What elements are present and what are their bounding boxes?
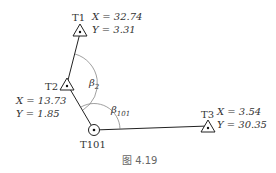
t3-y-coord: Y = 30.35: [217, 119, 267, 130]
t3-x-coord: X = 3.54: [216, 106, 261, 117]
station-label-t1: T1: [72, 12, 85, 23]
angle-label-beta2: β2: [88, 77, 100, 91]
angle-label-beta101: β101: [110, 104, 130, 118]
edge-t101-t3: [94, 126, 208, 130]
figure-caption: 图 4.19: [122, 155, 157, 166]
station-label-t2: T2: [45, 81, 58, 92]
station-label-t101: T101: [80, 139, 106, 150]
t1-x-coord: X = 32.74: [91, 11, 142, 22]
station-t2: [60, 78, 74, 90]
t2-y-coord: Y = 1.85: [16, 108, 60, 119]
station-label-t3: T3: [201, 109, 214, 120]
t1-y-coord: Y = 3.31: [92, 24, 136, 35]
station-t1: [73, 24, 87, 36]
station-t101: [89, 125, 100, 136]
triangle-marker-icon: [60, 78, 74, 90]
traverse-diagram: T1 X = 32.74 Y = 3.31 T2 X = 13.73 Y = 1…: [0, 0, 276, 173]
t2-x-coord: X = 13.73: [15, 95, 66, 106]
edge-t1-t2: [67, 33, 80, 84]
edge-t2-t101: [67, 84, 94, 130]
triangle-marker-icon: [73, 24, 87, 36]
